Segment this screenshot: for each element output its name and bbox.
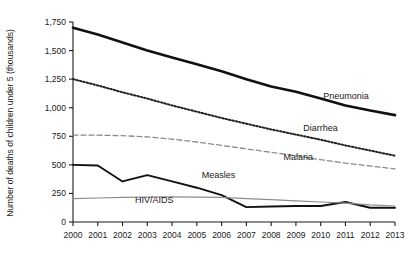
series-label-diarrhea: Diarrhea [303, 123, 338, 133]
chart-container: 02505007501,0001,2501,5001,750 200020012… [0, 0, 419, 256]
x-tick-label: 2011 [336, 230, 355, 240]
x-tick-label: 2006 [212, 230, 231, 240]
x-tick-label: 2000 [64, 230, 83, 240]
y-axis-ticks: 02505007501,0001,2501,5001,750 [45, 17, 73, 227]
y-tick-label: 0 [61, 217, 66, 227]
y-tick-label: 1,250 [45, 74, 67, 84]
x-axis-ticks: 2000200120022003200420052006200720082009… [64, 222, 405, 240]
y-tick-label: 1,750 [45, 17, 67, 27]
series-label-hiv-aids: HIV/AIDS [135, 195, 174, 205]
series-line-pneumonia [73, 28, 395, 115]
series-label-pneumonia: Pneumonia [323, 91, 369, 101]
series-line-malaria [73, 135, 395, 169]
data-series-layer [73, 28, 395, 208]
y-tick-label: 500 [52, 160, 66, 170]
x-tick-label: 2005 [187, 230, 206, 240]
series-label-measles: Measles [202, 170, 236, 180]
y-axis-title: Number of deaths of children under 5 (th… [5, 29, 15, 217]
y-tick-label: 1,000 [45, 103, 67, 113]
x-tick-label: 2012 [361, 230, 380, 240]
x-tick-label: 2008 [262, 230, 281, 240]
y-tick-label: 1,500 [45, 46, 67, 56]
chart-axes [73, 22, 395, 222]
x-tick-label: 2013 [386, 230, 405, 240]
x-tick-label: 2002 [113, 230, 132, 240]
x-tick-label: 2004 [163, 230, 182, 240]
y-tick-label: 250 [52, 188, 66, 198]
line-chart: 02505007501,0001,2501,5001,750 200020012… [0, 0, 419, 256]
x-tick-label: 2009 [286, 230, 305, 240]
y-tick-label: 750 [52, 131, 66, 141]
x-tick-label: 2010 [311, 230, 330, 240]
x-tick-label: 2007 [237, 230, 256, 240]
x-tick-label: 2001 [88, 230, 107, 240]
series-label-malaria: Malaria [284, 152, 314, 162]
x-tick-label: 2003 [138, 230, 157, 240]
series-labels-layer: PneumoniaDiarrheaMalariaMeaslesHIV/AIDS [135, 91, 369, 205]
